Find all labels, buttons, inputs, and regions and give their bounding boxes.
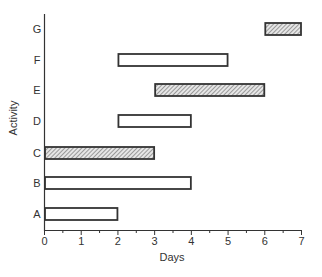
x-tick-label: 3 [152, 235, 158, 247]
x-tick-label: 0 [41, 235, 47, 247]
x-tick-label: 6 [262, 235, 268, 247]
bar-g [265, 23, 301, 35]
bars-group [45, 23, 301, 220]
x-axis-label: Days [159, 251, 185, 263]
x-tick-label: 2 [115, 235, 121, 247]
bar-c [45, 147, 154, 159]
y-tick-label-c: C [33, 147, 41, 159]
y-tick-label-b: B [33, 177, 40, 189]
x-tick-label: 7 [298, 235, 304, 247]
bar-e [155, 84, 264, 96]
bar-d [118, 115, 190, 127]
bar-f [118, 54, 227, 66]
bar-a [45, 208, 117, 220]
y-tick-label-a: A [33, 208, 41, 220]
x-tick-label: 4 [188, 235, 194, 247]
y-tick-label-e: E [33, 84, 40, 96]
x-ticks: 01234567 [41, 230, 304, 247]
y-tick-label-g: G [33, 23, 42, 35]
y-tick-label-d: D [33, 115, 41, 127]
y-labels: ABCDEFG [33, 23, 42, 220]
y-axis-label: Activity [7, 100, 19, 135]
x-tick-label: 5 [225, 235, 231, 247]
x-tick-label: 1 [78, 235, 84, 247]
y-tick-label-f: F [34, 54, 41, 66]
gantt-chart: 01234567 ABCDEFG Days Activity [0, 0, 322, 277]
bar-b [45, 177, 191, 189]
